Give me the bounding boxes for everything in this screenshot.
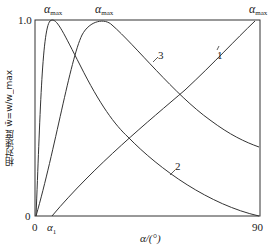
x-tick-zero: 0 [32, 222, 38, 233]
x-tick-alpha1: α1 [47, 222, 56, 236]
curve-label-3: 3 [158, 50, 164, 61]
alpha-max-label-2: αmax [95, 3, 113, 17]
alpha-max-label-3: αmax [249, 3, 267, 17]
curve-label-1: 1 [217, 50, 223, 61]
curve-label-2: 2 [175, 161, 181, 172]
alpha-max-label-1: αmax [44, 3, 62, 17]
x-tick-90: 90 [252, 222, 263, 233]
curve-2 [36, 20, 259, 216]
y-tick-zero: 0 [25, 211, 31, 222]
y-tick-top: 1.0 [18, 15, 32, 26]
y-axis-label: 相对速度 w̄=w/w_max [2, 70, 16, 166]
curve-1 [52, 21, 255, 216]
chart-plot [0, 0, 271, 251]
x-axis-label: α/(°) [140, 232, 161, 244]
